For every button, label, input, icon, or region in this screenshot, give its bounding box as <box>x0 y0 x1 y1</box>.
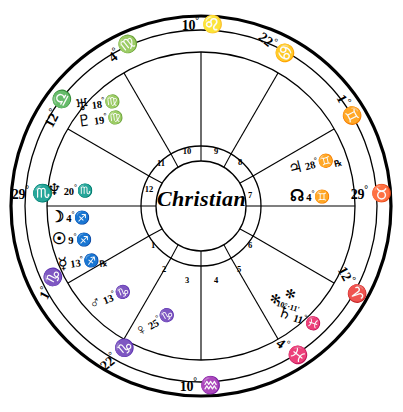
cusp-10-midheaven: 10° ♌ <box>182 16 223 33</box>
spoke-cusp-11 <box>124 73 171 154</box>
numeral-tick-9 <box>171 154 178 167</box>
house-number-7: 7 <box>242 191 258 200</box>
spoke-cusp-12 <box>68 129 149 176</box>
degree-symbol-icon: ° <box>25 185 29 195</box>
house-number-12: 12 <box>141 185 157 194</box>
house-number-11: 11 <box>153 159 169 168</box>
planet-glyph-moon-icon: ☽ <box>50 208 64 225</box>
zodiac-glyph-sagittarius-icon: ♐ <box>74 210 90 225</box>
zodiac-glyph-gemini-icon: ♊ <box>314 189 330 204</box>
retrograde-icon: ℞ <box>99 258 108 269</box>
cusp-degree: 10 <box>180 379 194 394</box>
numeral-tick-6 <box>149 229 162 236</box>
cusp-degree: 29 <box>351 187 365 202</box>
house-number-6: 6 <box>242 241 258 250</box>
planet-sun: ☉ 9°♐ <box>52 231 92 247</box>
house-number-3: 3 <box>179 276 195 285</box>
numeral-tick-2 <box>240 229 253 236</box>
spoke-cusp-10 <box>231 73 278 154</box>
zodiac-glyph-sagittarius-icon: ♐ <box>76 232 92 247</box>
house-number-8: 8 <box>232 158 248 167</box>
zodiac-glyph-scorpio-icon: ♏ <box>77 183 93 198</box>
planet-moon: ☽ 4°♐ <box>50 209 90 225</box>
house-number-5: 5 <box>231 265 247 274</box>
zodiac-glyph-aquarius-icon: ♒ <box>200 376 221 395</box>
planet-glyph-neptune-icon: ♆ <box>47 181 61 198</box>
spoke-cusp-6 <box>253 236 334 283</box>
planet-degree: 20 <box>64 186 74 197</box>
degree-symbol-icon: ° <box>195 16 199 26</box>
cusp-7-descendant: 29° ♉ <box>351 185 392 202</box>
house-number-2: 2 <box>156 265 172 274</box>
house-number-1: 1 <box>145 241 161 250</box>
numeral-tick-11 <box>224 154 231 167</box>
zodiac-glyph-gemini-icon: ♊ <box>316 152 335 170</box>
planet-glyph-mercury-icon: ☿ <box>57 254 69 272</box>
planet-north-node: ☊ 4°♊ <box>290 188 330 204</box>
house-number-10: 10 <box>179 147 195 156</box>
degree-symbol-icon: ° <box>193 377 197 387</box>
planet-glyph-sun-icon: ☉ <box>52 230 66 247</box>
zodiac-glyph-virgo-icon: ♍ <box>106 109 124 126</box>
zodiac-glyph-taurus-icon: ♉ <box>371 184 392 203</box>
house-number-4: 4 <box>208 276 224 285</box>
house-number-9: 9 <box>208 147 224 156</box>
numeral-tick-12 <box>240 176 253 183</box>
zodiac-glyph-leo-icon: ♌ <box>202 15 223 34</box>
cusp-degree: 10 <box>182 18 196 33</box>
numeral-tick-8 <box>149 176 162 183</box>
zodiac-glyph-sagittarius-icon: ♐ <box>82 252 100 269</box>
planet-cluster-uranus-pluto: ♅ 18°♍♇ 19°♍ <box>74 92 124 131</box>
planet-glyph-north-node-icon: ☊ <box>290 187 304 204</box>
numeral-tick-5 <box>171 245 178 258</box>
planet-glyph-jupiter-icon: ♃ <box>286 157 304 177</box>
planet-neptune: ♆ 20°♏ <box>47 182 93 198</box>
degree-symbol-icon: ° <box>364 185 368 195</box>
cusp-degree: 29 <box>12 187 26 202</box>
planet-glyph-pluto-icon: ♇ <box>76 112 92 131</box>
numeral-tick-3 <box>224 245 231 258</box>
astrology-chart-wheel: Christian 123456789101112 10° ♌4° ♍12° ♎… <box>0 0 403 412</box>
cusp-4-imum-coeli: 10° ♒ <box>180 377 221 394</box>
